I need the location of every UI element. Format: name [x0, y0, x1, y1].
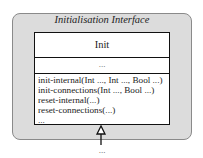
- inheritance-arrow-icon: [0, 0, 203, 158]
- ellipsis-label: ...: [92, 145, 112, 155]
